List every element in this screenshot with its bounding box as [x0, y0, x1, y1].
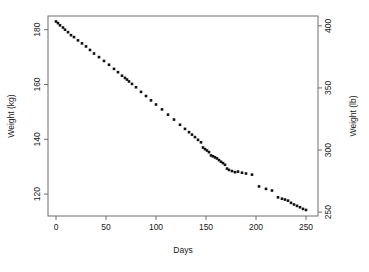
data-point: [224, 163, 227, 166]
y-tick-label: 120: [32, 187, 42, 201]
data-point: [70, 34, 73, 37]
data-point: [173, 118, 176, 121]
data-point: [299, 206, 302, 209]
x-tick-label: 100: [149, 222, 163, 232]
data-point: [200, 141, 203, 144]
y2-tick-label: 300: [323, 143, 333, 157]
data-point: [234, 171, 237, 174]
data-point: [231, 170, 234, 173]
data-point: [284, 198, 287, 201]
data-point: [59, 24, 62, 27]
data-point: [194, 136, 197, 139]
chart-canvas: 050100150200250 120140160180 25030035040…: [0, 0, 369, 272]
data-point: [131, 83, 134, 86]
data-point: [167, 113, 170, 116]
data-point: [251, 173, 254, 176]
data-point: [113, 68, 116, 71]
data-point: [188, 131, 191, 134]
data-point: [293, 203, 296, 206]
y-tick-label: 160: [32, 77, 42, 91]
data-point: [179, 123, 182, 126]
data-point: [117, 71, 120, 74]
data-point: [89, 49, 92, 52]
data-point: [121, 74, 124, 77]
data-point: [135, 86, 138, 89]
data-point: [73, 36, 76, 39]
data-point: [191, 133, 194, 136]
data-point: [98, 56, 101, 59]
data-point: [155, 103, 158, 106]
y-tick-label: 140: [32, 132, 42, 146]
data-point: [287, 199, 290, 202]
data-point: [150, 99, 153, 102]
data-point: [290, 202, 293, 205]
y2-tick-label: 400: [323, 18, 333, 32]
data-point: [103, 60, 106, 63]
data-point: [184, 128, 187, 131]
data-point: [93, 52, 96, 55]
x-tick-label: 250: [299, 222, 313, 232]
y-axis-right-title: Weight (lb): [348, 95, 358, 136]
data-point: [108, 63, 111, 66]
data-point: [77, 39, 80, 42]
data-point: [145, 95, 148, 98]
data-point: [281, 197, 284, 200]
data-point: [81, 42, 84, 45]
data-point: [67, 31, 70, 34]
data-point: [161, 108, 164, 111]
y2-tick-label: 350: [323, 81, 333, 95]
data-point: [208, 151, 211, 154]
x-axis-title: Days: [173, 245, 192, 255]
y-tick-label: 180: [32, 22, 42, 36]
y2-tick-label: 250: [323, 205, 333, 219]
data-point: [271, 189, 274, 192]
data-point: [85, 45, 88, 48]
x-tick-label: 200: [249, 222, 263, 232]
data-point: [302, 208, 305, 211]
data-point: [228, 169, 231, 172]
data-point: [140, 91, 143, 94]
data-point: [277, 196, 280, 199]
data-point: [305, 209, 308, 212]
data-point: [245, 172, 248, 175]
scatter-plot: 050100150200250 120140160180 25030035040…: [0, 0, 369, 272]
data-point: [64, 28, 67, 31]
data-point: [197, 139, 200, 142]
data-point: [258, 185, 261, 188]
y-axis-left-title: Weight (kg): [6, 94, 16, 137]
data-point: [237, 170, 240, 173]
x-tick-label: 50: [101, 222, 111, 232]
data-point: [128, 80, 131, 83]
data-point: [241, 171, 244, 174]
x-tick-label: 150: [199, 222, 213, 232]
x-tick-label: 0: [54, 222, 59, 232]
data-point: [296, 205, 299, 208]
data-point: [265, 188, 268, 191]
